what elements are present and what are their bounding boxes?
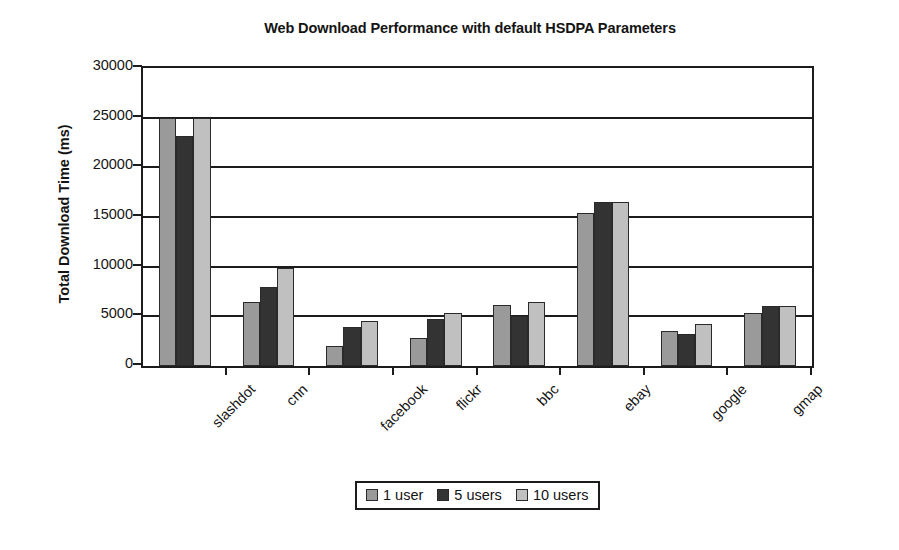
x-axis-category-label: ebay bbox=[620, 381, 654, 415]
chart-title: Web Download Performance with default HS… bbox=[120, 20, 820, 36]
bar bbox=[612, 202, 629, 366]
square-swatch-icon bbox=[516, 489, 528, 501]
x-axis-category-label: slashdot bbox=[209, 381, 259, 431]
x-axis-category-label: facebook bbox=[377, 381, 430, 434]
legend-entry: 10 users bbox=[516, 487, 589, 503]
y-axis-tick-mark bbox=[133, 115, 142, 117]
x-axis-tick-mark bbox=[476, 366, 478, 375]
legend-label: 10 users bbox=[533, 487, 589, 503]
bar-group bbox=[661, 68, 713, 366]
legend-label: 5 users bbox=[454, 487, 502, 503]
bar bbox=[326, 346, 343, 366]
x-axis-tick-mark bbox=[308, 366, 310, 375]
y-axis-tick-label: 0 bbox=[53, 356, 133, 371]
chart-figure: Web Download Performance with default HS… bbox=[0, 0, 899, 550]
bar bbox=[176, 136, 193, 366]
x-axis-category-label: flickr bbox=[452, 381, 484, 413]
bar bbox=[410, 338, 427, 366]
square-swatch-icon bbox=[366, 489, 378, 501]
plot-area bbox=[141, 66, 814, 368]
bar bbox=[695, 324, 712, 366]
bar bbox=[528, 302, 545, 366]
y-axis-tick-label: 15000 bbox=[53, 207, 133, 222]
x-axis-tick-mark bbox=[559, 366, 561, 375]
bar bbox=[444, 313, 461, 366]
bar-group bbox=[243, 68, 295, 366]
bar bbox=[661, 331, 678, 366]
bar bbox=[511, 316, 528, 366]
square-swatch-icon bbox=[437, 489, 449, 501]
x-axis-tick-mark bbox=[225, 366, 227, 375]
x-axis-category-label: cnn bbox=[283, 381, 311, 409]
bar bbox=[779, 306, 796, 366]
legend-entry: 1 user bbox=[366, 487, 423, 503]
x-axis-tick-mark bbox=[392, 366, 394, 375]
bar bbox=[193, 118, 210, 366]
bar bbox=[361, 321, 378, 366]
chart-legend: 1 user5 users10 users bbox=[355, 481, 600, 510]
y-axis-tick-mark bbox=[133, 264, 142, 266]
y-axis-tick-mark bbox=[133, 214, 142, 216]
y-axis-tick-label: 20000 bbox=[53, 157, 133, 172]
bar-group bbox=[577, 68, 629, 366]
legend-label: 1 user bbox=[383, 487, 423, 503]
bar-group bbox=[493, 68, 545, 366]
bar bbox=[159, 118, 176, 366]
x-axis-category-label: gmap bbox=[789, 381, 826, 418]
bar bbox=[594, 202, 611, 366]
y-axis-tick-mark bbox=[133, 65, 142, 67]
y-axis-tick-label: 30000 bbox=[53, 58, 133, 73]
y-axis-tick-mark bbox=[133, 313, 142, 315]
legend-entry: 5 users bbox=[437, 487, 502, 503]
bar-group bbox=[410, 68, 462, 366]
bar bbox=[277, 268, 294, 366]
x-axis-category-label: bbc bbox=[534, 381, 562, 409]
bar bbox=[427, 319, 444, 366]
y-axis-tick-label: 25000 bbox=[53, 108, 133, 123]
y-axis-tick-label: 10000 bbox=[53, 257, 133, 272]
y-axis-tick-label: 5000 bbox=[53, 306, 133, 321]
y-axis-tick-mark bbox=[133, 363, 142, 365]
bar-group bbox=[326, 68, 378, 366]
bar bbox=[493, 305, 510, 366]
bar bbox=[260, 287, 277, 366]
bar bbox=[762, 306, 779, 366]
bar bbox=[243, 302, 260, 366]
bar bbox=[744, 313, 761, 366]
bar bbox=[343, 327, 360, 366]
x-axis-tick-mark bbox=[810, 366, 812, 375]
bar-group bbox=[159, 68, 211, 366]
x-axis-category-label: google bbox=[707, 381, 749, 423]
y-axis-tick-labels: 300002500020000150001000050000 bbox=[45, 0, 133, 550]
y-axis-tick-mark bbox=[133, 164, 142, 166]
x-axis-tick-mark bbox=[726, 366, 728, 375]
x-axis-tick-mark bbox=[643, 366, 645, 375]
bar bbox=[577, 213, 594, 366]
bar-group bbox=[744, 68, 796, 366]
bar bbox=[678, 334, 695, 366]
